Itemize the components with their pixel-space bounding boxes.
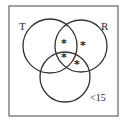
asterisk-marker: *	[61, 37, 67, 50]
venn-diagram: T R <15 * * * *	[0, 0, 126, 124]
set-r-label: R	[101, 20, 109, 32]
asterisk-marker: *	[74, 58, 80, 71]
asterisk-marker: *	[61, 51, 67, 64]
set-t-circle	[23, 19, 77, 73]
set-under-15-label: <15	[90, 92, 106, 103]
set-t-label: T	[19, 20, 26, 32]
asterisk-marker: *	[80, 39, 86, 52]
